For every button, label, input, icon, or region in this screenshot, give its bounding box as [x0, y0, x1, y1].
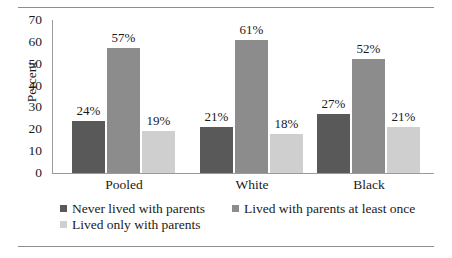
- bar-white-lived-only-with-parents[interactable]: 18%: [270, 134, 303, 173]
- y-tick-20: 20: [29, 123, 43, 137]
- bar-black-never-lived-with-parents[interactable]: 27%: [317, 114, 350, 173]
- x-label-pooled: Pooled: [105, 178, 143, 192]
- y-tick-40: 40: [29, 79, 43, 93]
- bar-group-black: 27% 52% 21%: [317, 20, 422, 173]
- top-divider-rule: [18, 7, 434, 8]
- y-tick-50: 50: [29, 57, 43, 71]
- chart-legend: Never lived with parents Lived with pare…: [52, 202, 434, 234]
- y-tick-0: 0: [35, 166, 42, 180]
- legend-item-never-lived-with-parents[interactable]: Never lived with parents: [60, 202, 205, 216]
- bottom-divider-rule: [18, 246, 434, 247]
- bar-value-label: 57%: [112, 31, 136, 44]
- y-tick-30: 30: [29, 101, 43, 115]
- bar-value-label: 52%: [357, 42, 381, 55]
- bar-group-white: 21% 61% 18%: [200, 20, 305, 173]
- legend-swatch-icon: [60, 221, 67, 228]
- bar-value-label: 21%: [392, 110, 416, 123]
- legend-swatch-icon: [232, 205, 239, 212]
- bar-value-label: 19%: [147, 114, 171, 127]
- bar-value-label: 24%: [77, 104, 101, 117]
- legend-row-1: Never lived with parents Lived with pare…: [52, 202, 434, 218]
- x-axis-line: [52, 173, 434, 174]
- bar-pooled-never-lived-with-parents[interactable]: 24%: [72, 121, 105, 173]
- legend-swatch-icon: [60, 205, 67, 212]
- x-axis-category-labels: Pooled White Black: [52, 178, 434, 196]
- y-axis-tick-labels: 70 60 50 40 30 20 10 0: [0, 20, 46, 173]
- y-tick-10: 10: [29, 144, 43, 158]
- legend-row-2: Lived only with parents: [52, 218, 434, 234]
- bar-black-lived-with-parents-at-least-once[interactable]: 52%: [352, 59, 385, 173]
- y-tick-60: 60: [29, 35, 43, 49]
- legend-label: Lived only with parents: [72, 218, 201, 232]
- legend-item-lived-with-parents-at-least-once[interactable]: Lived with parents at least once: [232, 202, 415, 216]
- bar-white-lived-with-parents-at-least-once[interactable]: 61%: [235, 40, 268, 173]
- bar-chart-figure: Percent 70 60 50 40 30 20 10 0 24% 57% 1…: [0, 0, 452, 258]
- bar-black-lived-only-with-parents[interactable]: 21%: [387, 127, 420, 173]
- bar-value-label: 61%: [240, 23, 264, 36]
- x-label-black: Black: [353, 178, 385, 192]
- bar-value-label: 21%: [205, 110, 229, 123]
- legend-label: Lived with parents at least once: [244, 202, 415, 216]
- bar-value-label: 18%: [275, 117, 299, 130]
- bar-groups: 24% 57% 19% 21% 61% 18% 27%: [52, 20, 434, 173]
- bar-group-pooled: 24% 57% 19%: [72, 20, 177, 173]
- x-label-white: White: [236, 178, 269, 192]
- y-tick-70: 70: [29, 13, 43, 27]
- legend-label: Never lived with parents: [72, 202, 205, 216]
- bar-value-label: 27%: [322, 97, 346, 110]
- legend-item-lived-only-with-parents[interactable]: Lived only with parents: [60, 218, 201, 232]
- bar-white-never-lived-with-parents[interactable]: 21%: [200, 127, 233, 173]
- bar-pooled-lived-with-parents-at-least-once[interactable]: 57%: [107, 48, 140, 173]
- bar-pooled-lived-only-with-parents[interactable]: 19%: [142, 131, 175, 173]
